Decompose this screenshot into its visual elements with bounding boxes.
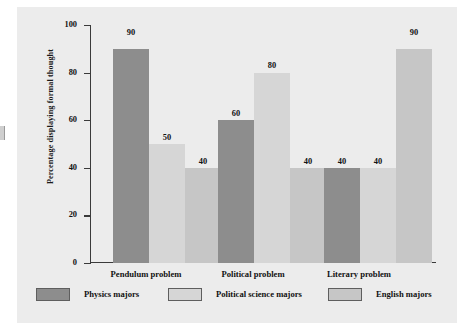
legend-entry-english-majors[interactable]: English majors [328, 285, 432, 303]
y-tick-40 [84, 168, 91, 169]
bar-label-literary-polisci: 40 [360, 157, 396, 166]
bar-literary-physics[interactable] [324, 168, 360, 263]
x-category-label-political: Political problem [198, 269, 308, 279]
y-tick-80 [84, 73, 91, 74]
bar-political-physics[interactable] [218, 120, 254, 263]
bars-layer: 90 50 40 60 80 40 40 40 90 [91, 25, 436, 263]
legend-label-english-majors: English majors [376, 289, 432, 299]
bar-label-political-english: 40 [290, 157, 326, 166]
legend-entry-political-science-majors[interactable]: Political science majors [168, 285, 302, 303]
plot-area: Percentage displaying formal thought 100… [17, 7, 457, 277]
x-category-label-pendulum: Pendulum problem [91, 269, 201, 279]
bar-label-pendulum-english: 40 [185, 157, 221, 166]
y-tick-label-100: 100 [37, 20, 77, 29]
bar-label-pendulum-polisci: 50 [149, 133, 185, 142]
y-tick-label-40: 40 [37, 163, 77, 172]
bar-pendulum-polisci[interactable] [149, 144, 185, 263]
y-tick-label-20: 20 [37, 210, 77, 219]
page-margin-mark [0, 126, 5, 140]
y-tick-label-80: 80 [37, 68, 77, 77]
legend-swatch-physics-majors [36, 288, 70, 301]
y-tick-60 [84, 120, 91, 121]
bar-label-political-physics: 60 [218, 109, 254, 118]
y-tick-0 [84, 263, 91, 264]
chart-figure: Percentage displaying formal thought 100… [17, 7, 457, 323]
legend-swatch-political-science-majors [168, 288, 202, 301]
chart-legend: Physics majors Political science majors … [17, 285, 457, 309]
bar-literary-english[interactable] [396, 49, 432, 263]
bar-literary-polisci[interactable] [360, 168, 396, 263]
y-tick-100 [84, 25, 91, 26]
bar-political-english[interactable] [290, 168, 326, 263]
bar-label-literary-english: 90 [396, 28, 432, 37]
bar-political-polisci[interactable] [254, 73, 290, 263]
bar-label-pendulum-physics: 90 [113, 28, 149, 37]
x-category-label-literary: Literary problem [304, 269, 414, 279]
bar-pendulum-physics[interactable] [113, 49, 149, 263]
y-tick-label-60: 60 [37, 115, 77, 124]
bar-pendulum-english[interactable] [185, 168, 221, 263]
y-tick-label-0: 0 [37, 258, 77, 267]
bar-label-political-polisci: 80 [254, 61, 290, 70]
legend-label-physics-majors: Physics majors [84, 289, 139, 299]
y-tick-20 [84, 215, 91, 216]
legend-swatch-english-majors [328, 288, 362, 301]
legend-entry-physics-majors[interactable]: Physics majors [36, 285, 139, 303]
legend-label-political-science-majors: Political science majors [216, 289, 302, 299]
bar-label-literary-physics: 40 [324, 157, 360, 166]
